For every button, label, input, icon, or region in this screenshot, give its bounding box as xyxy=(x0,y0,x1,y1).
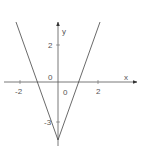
x-tick-label-pos2: 2 xyxy=(96,87,101,96)
function-graph: x y -2 2 2 -3 0 0 xyxy=(0,0,143,146)
y-axis-label: y xyxy=(62,27,66,36)
origin-label-lower: 0 xyxy=(63,88,68,97)
origin-label-upper: 0 xyxy=(48,73,53,82)
y-tick-label-neg3: -3 xyxy=(44,118,52,127)
x-tick-label-neg2: -2 xyxy=(15,87,23,96)
y-tick-label-pos2: 2 xyxy=(48,41,53,50)
x-axis-label: x xyxy=(124,73,128,82)
